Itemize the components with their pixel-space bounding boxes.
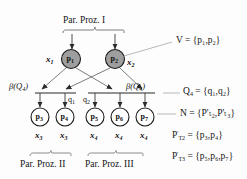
- token-label-x4-a: x4: [90, 131, 98, 140]
- arc-label-q1: q1: [68, 96, 75, 104]
- annotation-v: V = {p₁,p₂}: [176, 36, 220, 46]
- token-label-x4-b-sub: 4: [120, 135, 123, 141]
- annotation-pt3-sub: T3: [178, 156, 185, 162]
- token-label-x3-b-base: x: [60, 130, 65, 140]
- token-label-x4-c-sub: 4: [145, 135, 148, 141]
- annotation-n-set: {P'ₜ₂,P'ₜ₃}: [197, 108, 235, 118]
- input-arrows: [72, 34, 115, 49]
- brace-par-proz-2: [30, 151, 71, 157]
- token-label-x2-base: x: [127, 57, 132, 67]
- place-label-p1: p1: [67, 55, 74, 63]
- beta-label-right-end: ): [142, 81, 145, 91]
- place-label-p4: p4: [61, 113, 68, 121]
- arc-label-q2: q2: [83, 96, 90, 104]
- place-label-p2: p2: [111, 55, 118, 63]
- beta-label-right: β(Q4): [126, 82, 145, 91]
- place-label-p3-sub: 3: [40, 116, 43, 122]
- place-label-p3: p3: [36, 113, 43, 121]
- token-label-x2: x2: [127, 58, 135, 67]
- annotation-v-set: {p₁,p₂}: [193, 35, 221, 45]
- annotation-pt2-eq: =: [187, 130, 192, 140]
- annotation-n-eq: =: [189, 108, 194, 118]
- token-label-x1: x1: [46, 55, 54, 64]
- token-label-x3-a-sub: 3: [40, 135, 43, 141]
- beta-label-left-sub: 4: [22, 86, 25, 92]
- annotation-pt3-set: {p₅,p₆,p₇}: [195, 151, 233, 161]
- annotation-n-lhs: N: [180, 108, 187, 118]
- token-label-x4-c: x4: [140, 131, 148, 140]
- annotation-pt3: P'T3 = {p₅,p₆,p₇}: [172, 152, 233, 162]
- place-label-p1-sub: 1: [71, 58, 74, 64]
- token-label-x3-a-base: x: [35, 130, 40, 140]
- token-label-x1-sub: 1: [51, 59, 54, 65]
- leader-lines: [124, 42, 180, 114]
- beta-label-right-base: β(Q: [126, 81, 139, 91]
- annotation-n: N = {P'ₜ₂,P'ₜ₃}: [180, 109, 235, 119]
- annotation-pt2-sub: T2: [178, 135, 185, 141]
- token-label-x4-c-base: x: [140, 130, 145, 140]
- place-label-p2-sub: 2: [115, 58, 118, 64]
- annotation-pt2: P'T2 = {p₃,p₄}: [172, 131, 223, 141]
- annotation-pt3-eq: =: [187, 151, 192, 161]
- arc-label-q2-sub: 2: [87, 99, 90, 105]
- diagram-canvas: Par. Proz. I Par. Proz. II Par. Proz. II…: [0, 0, 247, 179]
- arc-label-q1-sub: 1: [72, 99, 75, 105]
- caption-par-proz-1: Par. Proz. I: [63, 16, 105, 26]
- token-label-x3-a: x3: [35, 131, 43, 140]
- brace-par-proz-3: [88, 151, 143, 157]
- token-label-x1-base: x: [46, 54, 51, 64]
- token-label-x4-b: x4: [115, 131, 123, 140]
- token-label-x3-b-sub: 3: [65, 135, 68, 141]
- beta-label-left-base: β(Q: [9, 81, 22, 91]
- token-label-x2-sub: 2: [132, 62, 135, 68]
- annotation-pt2-set: {p₃,p₄}: [195, 130, 223, 140]
- annotation-q4-set: {q₁,q₂}: [203, 86, 231, 96]
- place-label-p7: p7: [141, 113, 148, 121]
- place-label-p5: p5: [91, 113, 98, 121]
- token-label-x4-a-base: x: [90, 130, 95, 140]
- annotation-q4: Q4 = {q₁,q₂}: [183, 87, 231, 97]
- transition-bar-left-stems: [40, 93, 65, 107]
- token-label-x4-a-sub: 4: [95, 135, 98, 141]
- place-label-p7-sub: 7: [145, 116, 148, 122]
- annotation-v-eq: =: [185, 35, 190, 45]
- annotation-q4-lhs-sub: 4: [190, 91, 193, 97]
- token-label-x4-b-base: x: [115, 130, 120, 140]
- beta-label-right-sub: 4: [139, 86, 142, 92]
- place-label-p6: p6: [116, 113, 123, 121]
- caption-par-proz-3: Par. Proz. III: [85, 160, 134, 170]
- annotation-q4-lhs: Q: [183, 86, 190, 96]
- beta-label-left: β(Q4): [9, 82, 28, 91]
- annotation-v-lhs: V: [176, 35, 183, 45]
- transition-bar-right-stems: [95, 93, 145, 107]
- brace-par-proz-1: [63, 27, 124, 33]
- caption-par-proz-2: Par. Proz. II: [20, 160, 65, 170]
- annotation-q4-eq: =: [195, 86, 200, 96]
- place-label-p6-sub: 6: [120, 116, 123, 122]
- place-label-p4-sub: 4: [65, 116, 68, 122]
- place-label-p5-sub: 5: [95, 116, 98, 122]
- beta-label-left-end: ): [25, 81, 28, 91]
- token-label-x3-b: x3: [60, 131, 68, 140]
